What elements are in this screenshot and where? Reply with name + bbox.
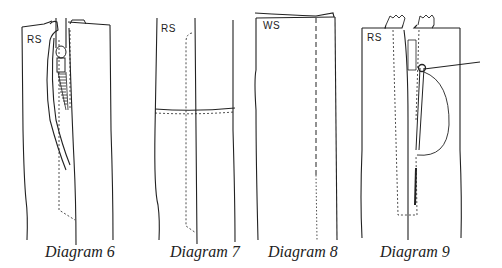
diagram-9-side-label: RS bbox=[367, 32, 382, 43]
diagram-8-side-label: WS bbox=[263, 20, 280, 31]
diagram-9-drawing bbox=[361, 15, 480, 240]
diagram-7-caption: Diagram 7 bbox=[170, 243, 240, 261]
diagram-7-side-label: RS bbox=[161, 23, 176, 34]
diagrams-canvas bbox=[0, 0, 502, 268]
diagram-6-caption: Diagram 6 bbox=[45, 243, 115, 261]
diagram-8-caption: Diagram 8 bbox=[268, 243, 338, 261]
diagram-7-drawing bbox=[155, 18, 235, 244]
diagram-6-drawing bbox=[22, 18, 113, 245]
diagram-8-drawing bbox=[255, 13, 337, 240]
diagram-9-caption: Diagram 9 bbox=[380, 243, 450, 261]
diagram-6-side-label: RS bbox=[27, 34, 42, 45]
